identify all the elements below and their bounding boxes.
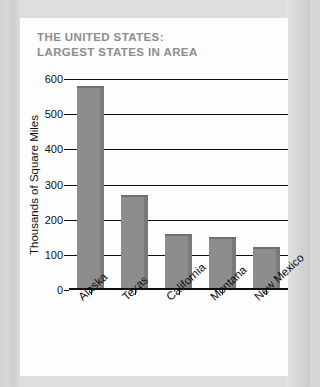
bar-slot [200, 79, 244, 290]
plot-area: 0100200300400500600 [69, 79, 288, 290]
bar-slot [244, 79, 288, 290]
y-tick-label: 100 [45, 249, 63, 261]
y-tick-label: 200 [45, 214, 63, 226]
bar-alaska[interactable] [77, 86, 104, 290]
y-tick-label: 500 [45, 108, 63, 120]
y-tick-label: 400 [45, 143, 63, 155]
bar-chart: 0100200300400500600 AlaskaTexasCaliforni… [20, 18, 288, 376]
y-tick-label: 0 [57, 284, 63, 296]
y-tick-label: 600 [45, 73, 63, 85]
bar-slot [113, 79, 157, 290]
bar-slot [69, 79, 113, 290]
bar-group [69, 79, 288, 290]
bar-slot [157, 79, 201, 290]
y-tick-label: 300 [45, 179, 63, 191]
x-axis-label-group: AlaskaTexasCaliforniaMontanaNew Mexico [69, 290, 288, 370]
chart-card: THE UNITED STATES: LARGEST STATES IN ARE… [20, 18, 288, 376]
